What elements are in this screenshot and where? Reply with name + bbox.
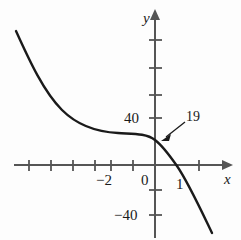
- origin-label: 0: [141, 173, 149, 188]
- y-tick-label-minus40: −40: [114, 208, 137, 223]
- y-tick-label-40: 40: [124, 111, 139, 126]
- y-axis-arrowhead: [150, 9, 160, 20]
- x-tick-label-minus2: −2: [96, 173, 112, 188]
- annotation-arrow-line: [166, 122, 185, 137]
- x-axis-arrowhead: [222, 160, 233, 170]
- graph-figure: [0, 0, 241, 240]
- x-tick-label-1: 1: [176, 177, 184, 192]
- curve: [16, 31, 212, 233]
- y-axis-label: y: [143, 11, 150, 26]
- annotation-arrowhead: [161, 134, 171, 141]
- annotation-label-19: 19: [186, 110, 200, 124]
- x-axis-label: x: [224, 172, 231, 187]
